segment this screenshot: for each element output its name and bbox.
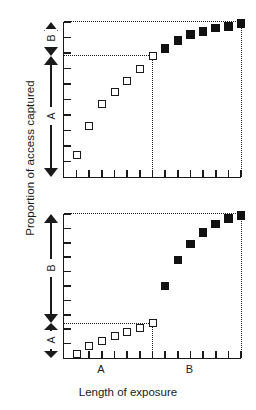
x-tick <box>88 351 90 358</box>
bracket-arrow-b-top: B <box>44 22 58 56</box>
chart-panel-top: B A <box>0 0 256 190</box>
x-tick <box>240 351 242 358</box>
x-tick <box>76 170 78 177</box>
arrow-head-down-icon <box>44 314 58 323</box>
data-point-open-square <box>111 332 119 340</box>
data-point-filled-square <box>224 22 233 31</box>
plot-area-top <box>63 22 241 178</box>
data-point-filled-square <box>186 30 195 39</box>
y-tick <box>64 130 71 132</box>
bracket-arrow-a-top: A <box>44 56 58 177</box>
y-tick <box>64 161 71 163</box>
y-tick <box>64 228 71 230</box>
reference-line-vertical <box>152 56 153 177</box>
y-tick <box>64 213 71 215</box>
bracket-label-b: B <box>45 29 57 47</box>
data-point-filled-square <box>174 256 183 265</box>
bracket-label-a: A <box>45 331 57 349</box>
plot-edge-right <box>241 21 242 177</box>
x-tick <box>228 351 230 358</box>
data-point-filled-square <box>174 36 183 45</box>
x-tick <box>164 351 166 358</box>
x-tick <box>202 170 204 177</box>
y-tick <box>64 68 71 70</box>
figure-container: Proportion of access captured B A <box>0 0 256 410</box>
arrow-head-down-icon <box>44 47 58 56</box>
data-point-open-square <box>73 350 81 358</box>
y-tick <box>64 285 71 287</box>
x-tick <box>139 351 141 358</box>
data-point-open-square <box>123 77 131 85</box>
data-point-filled-square <box>237 211 246 220</box>
x-tick <box>88 170 90 177</box>
plot-edge-top <box>64 21 242 22</box>
data-point-open-square <box>73 151 81 159</box>
y-tick <box>64 242 71 244</box>
y-tick <box>64 271 71 273</box>
x-axis-category-label: A <box>89 363 113 375</box>
y-tick <box>64 37 71 39</box>
y-tick <box>64 99 71 101</box>
bracket-arrow-b-bottom: B <box>44 214 58 323</box>
data-point-filled-square <box>211 24 220 33</box>
chart-panel-bottom: B A AB <box>0 190 256 368</box>
x-tick <box>177 351 179 358</box>
x-axis-category-label: B <box>177 363 201 375</box>
x-tick <box>215 351 217 358</box>
data-point-filled-square <box>224 214 233 223</box>
y-tick <box>64 83 71 85</box>
data-point-filled-square <box>199 27 208 36</box>
data-point-filled-square <box>237 19 246 28</box>
plot-edge-right <box>241 213 242 358</box>
x-tick <box>126 351 128 358</box>
arrow-head-down-icon <box>44 351 58 358</box>
data-point-open-square <box>85 122 93 130</box>
x-tick <box>101 351 103 358</box>
y-tick <box>64 145 71 147</box>
data-point-open-square <box>149 319 157 327</box>
x-tick <box>139 170 141 177</box>
x-tick <box>228 170 230 177</box>
x-tick <box>177 170 179 177</box>
x-tick <box>215 170 217 177</box>
bracket-label-a: A <box>45 107 57 125</box>
data-point-open-square <box>98 100 106 108</box>
data-point-open-square <box>98 337 106 345</box>
y-tick <box>64 52 71 54</box>
data-point-filled-square <box>211 220 220 229</box>
x-tick <box>190 351 192 358</box>
y-tick <box>64 314 71 316</box>
x-tick <box>101 170 103 177</box>
x-tick <box>114 170 116 177</box>
x-tick <box>190 170 192 177</box>
data-point-filled-square <box>161 44 170 53</box>
x-tick <box>126 170 128 177</box>
x-tick <box>114 351 116 358</box>
data-point-open-square <box>85 342 93 350</box>
data-point-open-square <box>136 65 144 73</box>
data-point-open-square <box>111 88 119 96</box>
y-tick <box>64 343 71 345</box>
x-tick <box>202 351 204 358</box>
plot-area-bottom <box>63 214 241 359</box>
y-tick <box>64 114 71 116</box>
y-tick <box>64 256 71 258</box>
y-tick <box>64 328 71 330</box>
x-axis-label: Length of exposure <box>0 386 256 398</box>
reference-line-horizontal <box>64 55 153 56</box>
data-point-filled-square <box>161 282 170 291</box>
bracket-label-b: B <box>45 259 57 277</box>
data-point-filled-square <box>199 228 208 237</box>
reference-line-vertical <box>152 323 153 358</box>
y-tick <box>64 21 71 23</box>
data-point-open-square <box>136 324 144 332</box>
data-point-open-square <box>149 52 157 60</box>
x-tick <box>240 170 242 177</box>
arrow-head-down-icon <box>44 168 58 177</box>
x-tick <box>164 170 166 177</box>
plot-edge-top <box>64 213 242 214</box>
data-point-open-square <box>123 328 131 336</box>
y-tick <box>64 300 71 302</box>
bracket-arrow-a-bottom: A <box>44 323 58 358</box>
data-point-filled-square <box>186 240 195 249</box>
